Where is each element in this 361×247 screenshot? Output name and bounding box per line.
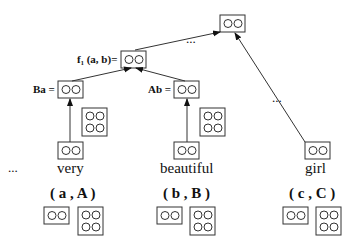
pair-c: ( c , C ) xyxy=(289,185,335,202)
word-very: very xyxy=(57,160,84,177)
diagram: f₁ (a, b)= Ba = Ab = very beautiful girl… xyxy=(0,0,361,247)
ab-label: Ab = xyxy=(148,83,171,95)
word-girl: girl xyxy=(305,160,326,177)
word-beautiful: beautiful xyxy=(160,160,213,177)
ellipsis-right: ... xyxy=(272,90,282,106)
pair-b: ( b , B ) xyxy=(163,185,210,202)
diagram-graphics xyxy=(0,0,361,247)
ba-label: Ba = xyxy=(33,83,55,95)
f1-label: f₁ (a, b)= xyxy=(77,53,117,65)
ellipsis-top: ... xyxy=(186,31,196,47)
ellipsis-left: ... xyxy=(8,160,18,176)
pair-a: ( a , A ) xyxy=(50,185,95,202)
